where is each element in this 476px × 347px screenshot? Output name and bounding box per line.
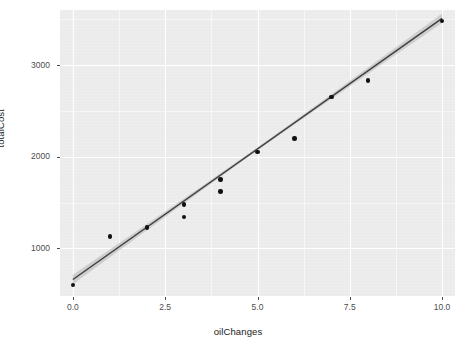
x-tick-mark <box>258 297 259 300</box>
data-point <box>182 215 186 219</box>
y-tick-label-1000: 1000 <box>18 243 50 253</box>
data-point <box>440 19 444 23</box>
x-tick-label-2.5: 2.5 <box>145 302 185 312</box>
data-point <box>329 95 333 99</box>
data-point <box>255 150 259 154</box>
data-point <box>71 283 75 287</box>
x-axis-title: oilChanges <box>0 326 476 337</box>
scatter-points-layer <box>60 10 455 296</box>
x-tick-mark <box>350 297 351 300</box>
data-point <box>108 234 112 238</box>
data-point <box>292 136 296 140</box>
x-tick-label-5.0: 5.0 <box>238 302 278 312</box>
data-point <box>182 202 186 206</box>
x-tick-mark <box>442 297 443 300</box>
chart-root: totalCost 3000 2000 1000 0.02.55.07.510.… <box>0 0 476 347</box>
x-tick-label-7.5: 7.5 <box>330 302 370 312</box>
plot-panel <box>60 10 455 296</box>
data-point <box>145 225 149 229</box>
x-tick-mark <box>73 297 74 300</box>
data-point <box>366 78 370 82</box>
y-tick-label-2000: 2000 <box>18 151 50 161</box>
data-point <box>218 189 222 193</box>
y-tick-label-3000: 3000 <box>18 60 50 70</box>
data-point <box>218 177 222 181</box>
x-tick-mark <box>165 297 166 300</box>
y-axis-title: totalCost <box>0 109 6 147</box>
x-tick-label-10.0: 10.0 <box>422 302 462 312</box>
x-tick-label-0.0: 0.0 <box>53 302 93 312</box>
